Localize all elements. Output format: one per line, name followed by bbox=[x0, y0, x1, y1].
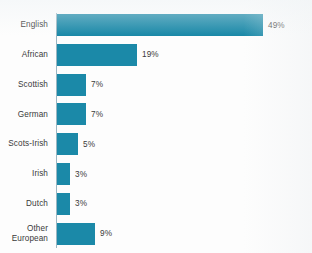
bar-value-label: 3% bbox=[75, 193, 87, 215]
bar bbox=[57, 103, 86, 125]
bar-value-label: 9% bbox=[100, 223, 112, 245]
bar-category-label: Irish bbox=[0, 163, 52, 185]
bar-value-label: 3% bbox=[75, 163, 87, 185]
bar-value-label: 19% bbox=[142, 44, 159, 66]
category-axis-line bbox=[56, 13, 57, 248]
bar-row: English49% bbox=[0, 14, 312, 36]
bar-category-label: German bbox=[0, 103, 52, 125]
bar bbox=[57, 44, 137, 66]
bar-value-label: 49% bbox=[268, 14, 285, 36]
bar-value-label: 7% bbox=[91, 103, 103, 125]
bar-row: Scottish7% bbox=[0, 74, 312, 96]
bar-chart-figure: English49%African19%Scottish7%German7%Sc… bbox=[0, 0, 312, 253]
bar bbox=[57, 193, 70, 215]
bar bbox=[57, 133, 78, 155]
plot-area: English49%African19%Scottish7%German7%Sc… bbox=[0, 0, 312, 253]
bar-category-label: Scots-Irish bbox=[0, 133, 52, 155]
bar-row: Dutch3% bbox=[0, 193, 312, 215]
bar-category-label: African bbox=[0, 44, 52, 66]
bar-category-label: Dutch bbox=[0, 193, 52, 215]
bar bbox=[57, 74, 86, 96]
bar-row: African19% bbox=[0, 44, 312, 66]
bar-row: Scots-Irish5% bbox=[0, 133, 312, 155]
bar bbox=[57, 223, 95, 245]
bar-value-label: 5% bbox=[83, 133, 95, 155]
bar-category-label: Scottish bbox=[0, 74, 52, 96]
bar bbox=[57, 14, 263, 36]
bar-row: Irish3% bbox=[0, 163, 312, 185]
bar-row: Other European9% bbox=[0, 223, 312, 245]
bar bbox=[57, 163, 70, 185]
bar-value-label: 7% bbox=[91, 74, 103, 96]
bar-category-label: English bbox=[0, 14, 52, 36]
bar-row: German7% bbox=[0, 103, 312, 125]
bar-category-label: Other European bbox=[0, 223, 52, 245]
